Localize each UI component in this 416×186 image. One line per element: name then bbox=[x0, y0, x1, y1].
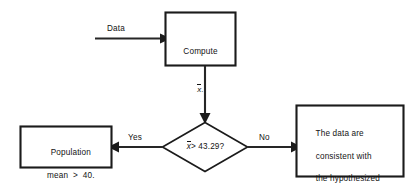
edge-label-yes: Yes bbox=[128, 133, 142, 142]
flowchart-canvas: Compute x. x> 43.29? Population mean > 4… bbox=[0, 0, 416, 186]
edge-label-data: Data bbox=[107, 24, 125, 33]
right-result-line1: The data are bbox=[316, 129, 364, 138]
xbar-suffix: . bbox=[201, 85, 203, 94]
compute-label: Compute bbox=[165, 46, 236, 57]
compute-xbar: x. bbox=[165, 84, 236, 95]
right-result-line3: the hypothesized bbox=[316, 174, 380, 183]
left-result-text: Population mean > 40. bbox=[22, 136, 110, 186]
right-result-text: The data are consistent with the hypothe… bbox=[306, 117, 398, 186]
edge-label-no: No bbox=[259, 133, 270, 142]
decision-text: x> 43.29? bbox=[163, 141, 248, 152]
left-result-line2: mean > 40. bbox=[47, 171, 95, 180]
right-result-line2: consistent with bbox=[316, 152, 372, 161]
decision-condition: > 43.29? bbox=[191, 142, 224, 151]
left-result-line1: Population bbox=[51, 148, 91, 157]
compute-box-text: Compute x. bbox=[165, 24, 236, 118]
